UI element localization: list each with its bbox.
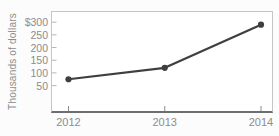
y-tick-label: 100 [0,67,48,79]
y-tick-label: 50 [0,80,48,92]
y-tick-label: 250 [0,29,48,41]
x-tick-label: 2012 [44,116,94,129]
x-tick-label: 2013 [140,116,190,129]
y-tick-label: 200 [0,42,48,54]
y-tick-label: $300 [0,16,48,28]
chart-plot-svg [52,12,272,111]
line-chart: Thousands of dollars $30025020015010050 … [0,0,279,136]
data-point [162,65,168,71]
x-tick-label: 2014 [236,116,279,129]
y-tick-label: 150 [0,54,48,66]
data-point [65,76,71,82]
data-point [258,22,264,28]
trend-line [69,25,262,80]
